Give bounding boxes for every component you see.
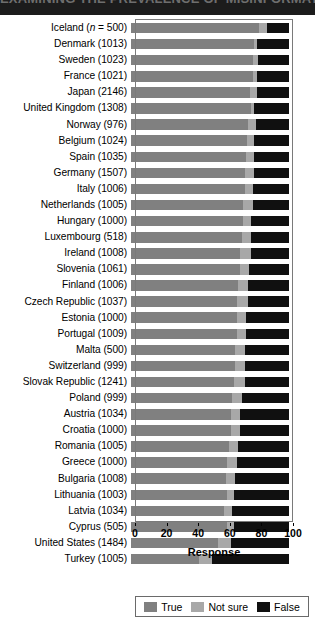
bar-segment-false [234,490,289,501]
bar-segment-false [240,425,289,436]
bar-segment-true [131,39,254,50]
stacked-bar [131,490,289,501]
category-label: Greece (1000) [0,457,131,467]
stacked-bar [131,200,289,211]
bar-segment-true [131,216,243,227]
chart-legend: TrueNot sureFalse [135,596,309,617]
chart-row: Lithuania (1003) [0,487,315,503]
chart-row: Austria (1034) [0,406,315,422]
category-label: Luxembourg (518) [0,232,131,242]
category-label: Bulgaria (1008) [0,474,131,484]
category-label: Slovenia (1061) [0,264,131,274]
stacked-bar [131,312,289,323]
bar-segment-true [131,377,234,388]
bar-segment-not-sure [243,216,251,227]
chart-row: Hungary (1000) [0,213,315,229]
x-tick [135,523,136,526]
bar-segment-not-sure [231,425,240,436]
bar-segment-true [131,425,231,436]
bar-segment-false [256,119,289,130]
stacked-bar [131,506,289,517]
chart-row: Latvia (1034) [0,503,315,519]
bar-segment-false [246,329,289,340]
bar-segment-false [251,232,289,243]
bar-segment-false [258,55,289,66]
bar-segment-false [242,393,289,404]
x-tick-label: 80 [246,527,276,539]
bar-segment-false [257,71,289,82]
stacked-bar-chart: Iceland (n = 500)Denmark (1013)Sweden (1… [0,15,315,632]
category-label: Austria (1034) [0,409,131,419]
category-label: Romania (1005) [0,441,131,451]
x-tick [167,523,168,526]
x-tick [261,523,262,526]
chart-row: Iceland (n = 500) [0,20,315,36]
bar-segment-not-sure [235,361,244,372]
bar-segment-true [131,393,232,404]
bar-segment-false [254,103,289,114]
bar-segment-false [245,361,289,372]
legend-label: True [161,601,182,613]
stacked-bar [131,441,289,452]
chart-rows: Iceland (n = 500)Denmark (1013)Sweden (1… [0,20,315,567]
bar-segment-true [131,103,251,114]
bar-segment-false [249,264,289,275]
top-cropped-band: EXAMINING THE PREVALENCE OF MISINFORMATI… [0,0,315,15]
bar-segment-not-sure [227,457,236,468]
stacked-bar [131,71,289,82]
stacked-bar [131,377,289,388]
stacked-bar [131,23,289,34]
legend-item-true[interactable]: True [144,601,182,613]
chart-row: Portugal (1009) [0,326,315,342]
bar-segment-true [131,200,243,211]
bar-segment-true [131,409,231,420]
category-label: Italy (1006) [0,184,131,194]
stacked-bar [131,425,289,436]
bar-segment-false [245,345,289,356]
x-axis-title: Response [135,546,293,558]
bar-segment-false [246,312,289,323]
legend-swatch [144,602,157,612]
chart-row: Finland (1006) [0,278,315,294]
stacked-bar [131,473,289,484]
bar-segment-false [240,409,289,420]
bar-segment-true [131,168,245,179]
category-label: Finland (1006) [0,280,131,290]
category-label: Iceland (n = 500) [0,23,131,33]
bar-segment-false [238,441,289,452]
legend-item-not-sure[interactable]: Not sure [191,601,248,613]
stacked-bar [131,103,289,114]
x-tick-label: 40 [183,527,213,539]
bar-segment-true [131,329,237,340]
legend-item-false[interactable]: False [257,601,300,613]
bar-segment-not-sure [248,119,256,130]
category-label: Poland (999) [0,393,131,403]
bar-segment-false [254,152,289,163]
category-label: France (1021) [0,71,131,81]
bar-segment-false [248,296,289,307]
category-label: Japan (2146) [0,87,131,97]
category-label: Hungary (1000) [0,216,131,226]
bar-segment-false [257,87,289,98]
category-label: Spain (1035) [0,152,131,162]
stacked-bar [131,329,289,340]
x-tick-label: 20 [152,527,182,539]
bar-segment-true [131,119,248,130]
bar-segment-not-sure [237,329,246,340]
category-label: Norway (976) [0,120,131,130]
bar-segment-true [131,135,247,146]
legend-label: Not sure [208,601,248,613]
stacked-bar [131,280,289,291]
stacked-bar [131,345,289,356]
chart-row: Norway (976) [0,117,315,133]
x-tick-label: 0 [120,527,150,539]
stacked-bar [131,457,289,468]
bar-segment-true [131,473,226,484]
stacked-bar [131,87,289,98]
category-label: Sweden (1023) [0,55,131,65]
bar-segment-not-sure [238,280,247,291]
chart-row: Poland (999) [0,390,315,406]
category-label: Slovak Republic (1241) [0,377,131,387]
x-tick [198,523,199,526]
bar-segment-false [251,248,289,259]
